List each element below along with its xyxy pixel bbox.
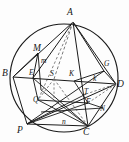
point-label-K: K bbox=[69, 70, 74, 78]
point-label-B: B bbox=[2, 69, 8, 79]
point-label-S: S bbox=[50, 70, 54, 78]
segment-F-D-dashed bbox=[88, 84, 116, 103]
point-label-Q: Q bbox=[33, 96, 38, 104]
segment-label-k: k bbox=[93, 75, 96, 83]
segment-G-D bbox=[104, 71, 116, 84]
segment-P-C bbox=[27, 124, 88, 126]
segment-A-C bbox=[73, 22, 88, 126]
point-label-P: P bbox=[17, 126, 23, 136]
point-label-T: T bbox=[84, 88, 88, 96]
point-label-D: D bbox=[117, 80, 124, 90]
point-label-A: A bbox=[67, 8, 73, 18]
point-label-G: G bbox=[104, 60, 109, 68]
segment-B-D bbox=[13, 77, 116, 84]
segment-T-D-dashed bbox=[86, 84, 116, 94]
point-label-N: N bbox=[100, 105, 105, 113]
segment-label-m: m bbox=[41, 57, 46, 65]
point-label-M: M bbox=[33, 44, 41, 54]
segment-label-n: n bbox=[62, 118, 66, 126]
geometry-figure: A B D P C M E S K G Q T F N m k n bbox=[0, 0, 129, 142]
point-label-E: E bbox=[29, 69, 34, 77]
point-label-C: C bbox=[83, 128, 89, 138]
segment-G-K bbox=[74, 71, 104, 81]
point-label-F: F bbox=[86, 98, 91, 106]
